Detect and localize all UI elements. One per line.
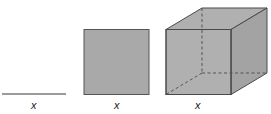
cube-front-face bbox=[166, 30, 231, 95]
square-label: x bbox=[113, 99, 120, 111]
square bbox=[84, 30, 149, 95]
square-figure: x bbox=[84, 30, 149, 112]
dimension-diagram: x x x bbox=[0, 0, 271, 114]
line-segment-label: x bbox=[30, 99, 37, 111]
line-segment-figure: x bbox=[2, 94, 66, 111]
cube-figure: x bbox=[166, 8, 267, 111]
cube-label: x bbox=[194, 99, 201, 111]
